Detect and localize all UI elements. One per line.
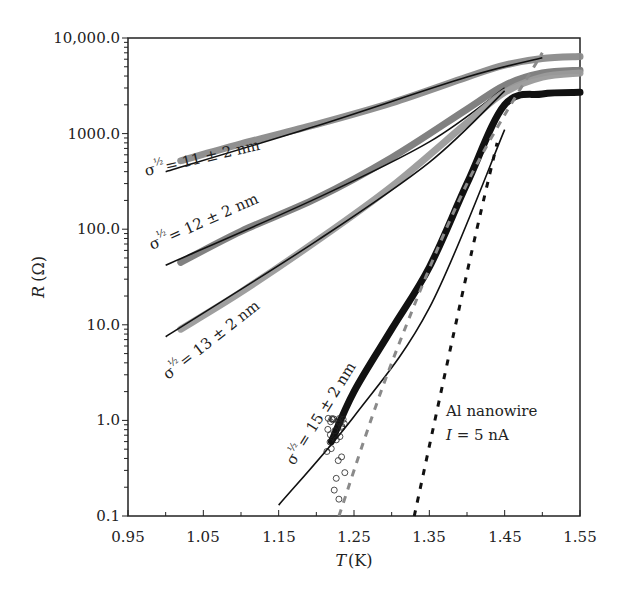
x-tick-label: 1.55 xyxy=(563,528,596,546)
y-tick-label: 100.0 xyxy=(77,220,120,238)
svg-text:σ½= 15 ± 2 nm: σ½= 15 ± 2 nm xyxy=(280,357,360,468)
svg-text:σ½= 11 ± 2 nm: σ½= 11 ± 2 nm xyxy=(142,133,261,180)
x-tick-label: 1.25 xyxy=(337,528,370,546)
x-tick-label: 0.95 xyxy=(111,528,144,546)
x-tick-label: 1.45 xyxy=(488,528,521,546)
x-tick-label: 1.15 xyxy=(262,528,295,546)
annotation-sigma-15: σ½= 15 ± 2 nm xyxy=(280,357,360,468)
legend-current: I = 5 nA xyxy=(445,426,509,444)
series-2 xyxy=(181,70,580,262)
y-tick-label: 10.0 xyxy=(87,316,120,334)
x-axis-ticks xyxy=(128,510,580,516)
resistance-temperature-chart: 10,000.0 1000.0 100.0 10.0 1.0 0.1 0.95 … xyxy=(0,0,626,607)
y-tick-label: 0.1 xyxy=(96,507,120,525)
legend-sample: Al nanowire xyxy=(445,402,538,420)
annotation-sigma-11: σ½= 11 ± 2 nm xyxy=(142,133,261,180)
x-tick-label: 1.05 xyxy=(186,528,219,546)
x-tick-label: 1.35 xyxy=(412,528,445,546)
y-tick-label: 10,000.0 xyxy=(53,29,120,47)
plot-frame xyxy=(128,38,580,516)
x-axis-title: T(K) xyxy=(335,551,372,570)
y-axis-ticks xyxy=(122,38,128,516)
x-tick-labels: 0.95 1.05 1.15 1.25 1.35 1.45 1.55 xyxy=(111,528,596,546)
svg-text:σ½= 12 ± 2 nm: σ½= 12 ± 2 nm xyxy=(145,187,261,254)
y-axis-title: R(Ω) xyxy=(29,256,48,299)
y-tick-label: 1000.0 xyxy=(68,125,121,143)
y-tick-labels: 10,000.0 1000.0 100.0 10.0 1.0 0.1 xyxy=(53,29,120,525)
y-tick-label: 1.0 xyxy=(96,411,120,429)
annotation-sigma-12: σ½= 12 ± 2 nm xyxy=(145,187,261,254)
series-layer xyxy=(166,53,580,516)
series-9 xyxy=(414,143,497,516)
